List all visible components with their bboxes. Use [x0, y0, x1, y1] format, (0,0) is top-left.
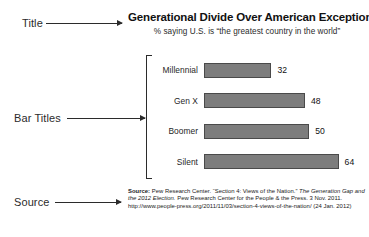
source-line-3-url[interactable]: http://www.people-press.org/2011/11/03/s… — [128, 203, 368, 210]
source-prefix: Source: — [128, 188, 150, 194]
source-line-1: Source: Pew Research Center. “Section 4:… — [128, 188, 368, 195]
chart-header: Generational Divide Over American Except… — [128, 11, 366, 37]
annotation-label-source: Source — [14, 196, 49, 208]
source-line-2-italic: the 2012 Election. — [128, 195, 176, 201]
bar-track: 50 — [204, 116, 366, 147]
bar-value-boomer: 50 — [315, 126, 325, 136]
chart-subtitle: % saying U.S. is “the greatest country i… — [128, 27, 366, 37]
source-line-1-italic: The Generation Gap and — [299, 188, 365, 194]
bar-track: 64 — [204, 147, 366, 178]
bar-row: Boomer 50 — [152, 116, 366, 147]
bar-label-boomer: Boomer — [152, 126, 204, 136]
bar-value-gen-x: 48 — [311, 96, 321, 106]
annotation-label-title: Title — [22, 17, 43, 29]
bar-value-millennial: 32 — [277, 65, 287, 75]
arrow-to-source-icon — [55, 202, 121, 203]
bar-label-silent: Silent — [152, 157, 204, 167]
bar-row: Silent 64 — [152, 147, 366, 178]
source-citation: Source: Pew Research Center. “Section 4:… — [128, 188, 368, 210]
arrow-to-title-icon — [46, 23, 122, 24]
source-line-2: the 2012 Election. Pew Research Center f… — [128, 195, 368, 202]
bar-gen-x — [204, 93, 305, 108]
chart-title: Generational Divide Over American Except… — [128, 11, 366, 24]
bar-label-gen-x: Gen X — [152, 96, 204, 106]
bar-row: Millennial 32 — [152, 55, 366, 86]
bar-track: 48 — [204, 86, 366, 117]
bar-silent — [204, 154, 339, 169]
bar-chart: Millennial 32 Gen X 48 Boomer 50 Silent — [152, 55, 366, 177]
bar-label-millennial: Millennial — [152, 65, 204, 75]
source-line-2-text: Pew Research Center for the People & the… — [176, 195, 343, 201]
annotation-label-bar-titles: Bar Titles — [14, 112, 61, 124]
bar-row: Gen X 48 — [152, 86, 366, 117]
source-line-1-text: Pew Research Center. “Section 4: Views o… — [150, 188, 299, 194]
arrow-to-bar-titles-icon — [67, 118, 145, 119]
bar-value-silent: 64 — [345, 157, 355, 167]
bar-boomer — [204, 124, 309, 139]
bar-millennial — [204, 63, 271, 78]
infographic-page: Title Generational Divide Over American … — [0, 0, 369, 237]
bar-track: 32 — [204, 55, 366, 86]
